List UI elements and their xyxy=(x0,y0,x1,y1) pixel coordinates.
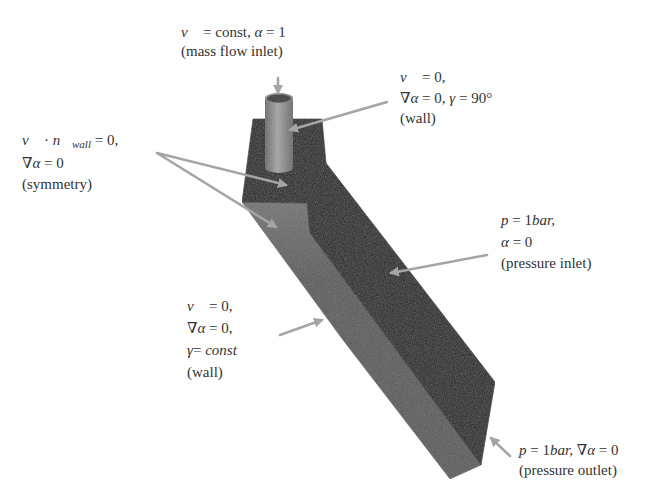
bc-label-mass-flow-inlet: v⃗ = const, α = 1 (mass flow inlet) xyxy=(181,23,286,61)
equation-text: = 1 xyxy=(509,212,532,228)
equation-line: v⃗ = 0, xyxy=(400,67,492,88)
equation-line: v⃗ · n⃗wall = 0, xyxy=(22,130,118,153)
bc-label-pressure-outlet: p = 1bar, ∇α = 0 (pressure outlet) xyxy=(519,440,618,480)
equation-text: = 0, xyxy=(418,69,445,85)
pressure-symbol: p xyxy=(501,212,509,228)
equation-text: = 1 xyxy=(262,24,285,40)
bc-label-wall-side: v⃗ = 0, ∇α = 0, γ= const (wall) xyxy=(187,295,237,383)
equation-line: γ= const xyxy=(187,339,237,361)
leader-arrow-wall-top xyxy=(290,102,387,130)
unit-bar: bar xyxy=(532,212,551,228)
grad-alpha-symbol: ∇α xyxy=(187,320,205,336)
boundary-conditions-diagram: v⃗ = const, α = 1 (mass flow inlet) v⃗ =… xyxy=(0,0,670,500)
pipe-bottom xyxy=(265,163,293,173)
equation-line: ∇α = 0, γ = 90° xyxy=(400,88,492,109)
grad-alpha-symbol: ∇α xyxy=(22,155,40,171)
equation-text: = 0 xyxy=(595,442,618,458)
equation-text: = 0, xyxy=(418,90,449,106)
equation-line: p = 1bar, ∇α = 0 xyxy=(519,440,618,460)
equation-text: = const, xyxy=(199,24,254,40)
equation-line: ∇α = 0 xyxy=(22,153,118,175)
equation-text: = 0, xyxy=(91,132,118,148)
pressure-symbol: p xyxy=(519,442,527,458)
leader-arrow-wall-side xyxy=(280,320,322,335)
alpha-symbol: α xyxy=(501,234,509,250)
equation-line: α = 0 xyxy=(501,232,591,254)
normal-subscript: wall xyxy=(72,138,91,150)
velocity-symbol: v⃗ xyxy=(22,132,40,148)
bc-label-wall-top: v⃗ = 0, ∇α = 0, γ = 90° (wall) xyxy=(400,67,492,129)
equation-text: = 0, xyxy=(205,298,232,314)
equation-text: = 0, xyxy=(205,320,232,336)
pipe-body xyxy=(265,98,293,168)
inlet-pipe xyxy=(265,93,293,173)
leader-arrow-pressure-outlet xyxy=(491,438,510,456)
equation-text: , xyxy=(569,442,577,458)
equation-line: p = 1bar, xyxy=(501,210,591,232)
equation-text: , xyxy=(551,212,555,228)
bc-type-label: (wall) xyxy=(187,361,237,383)
velocity-symbol: v⃗ xyxy=(400,69,418,85)
bc-type-label: (wall) xyxy=(400,108,492,129)
equation-text: = 0 xyxy=(509,234,532,250)
equation-text: = 1 xyxy=(527,442,550,458)
bc-label-symmetry: v⃗ · n⃗wall = 0, ∇α = 0 (symmetry) xyxy=(22,130,118,196)
equation-text: = 0 xyxy=(40,155,63,171)
equation-text: = xyxy=(193,342,205,358)
equation-line: v⃗ = const, α = 1 xyxy=(181,23,286,42)
grad-alpha-symbol: ∇α xyxy=(577,442,595,458)
equation-line: v⃗ = 0, xyxy=(187,295,237,317)
equation-text: · xyxy=(40,132,53,148)
velocity-symbol: v⃗ xyxy=(181,24,199,40)
leader-arrow-pressure-inlet xyxy=(391,255,487,273)
bc-type-label: (mass flow inlet) xyxy=(181,42,286,61)
normal-vector-symbol: n⃗ xyxy=(53,132,72,148)
const-text: const xyxy=(205,342,237,358)
equation-line: ∇α = 0, xyxy=(187,317,237,339)
bc-type-label: (symmetry) xyxy=(22,174,118,196)
bc-type-label: (pressure inlet) xyxy=(501,253,591,275)
bc-type-label: (pressure outlet) xyxy=(519,460,618,480)
bc-label-pressure-inlet: p = 1bar, α = 0 (pressure inlet) xyxy=(501,210,591,275)
unit-bar: bar xyxy=(550,442,569,458)
equation-text: = 90° xyxy=(455,90,492,106)
velocity-symbol: v⃗ xyxy=(187,298,205,314)
pipe-opening xyxy=(267,95,291,103)
grad-alpha-symbol: ∇α xyxy=(400,90,418,106)
